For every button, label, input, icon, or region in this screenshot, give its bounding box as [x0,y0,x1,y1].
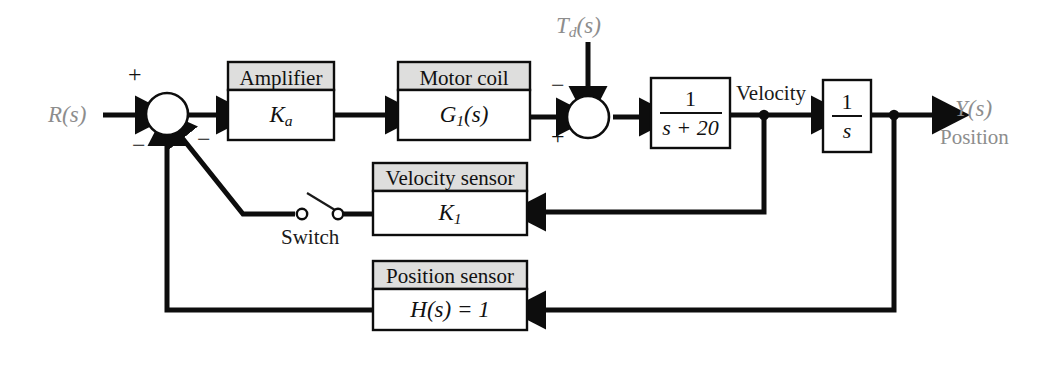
disturbance-arg: (s) [577,13,601,38]
output-signal-name: Position [940,127,1009,148]
position-sensor-expr-tail: (s) = 1 [427,297,490,322]
plant-lag-denominator: s + 20 [651,114,730,139]
disturbance-symbol: T [556,13,569,38]
input-signal-label: R(s) [48,103,86,126]
plant-lag-expression: 1 s + 20 [651,88,730,139]
switch-terminal-right[interactable] [333,209,343,219]
velocity-sensor-expression: K1 [373,201,527,227]
amplifier-title: Amplifier [228,68,334,89]
velocity-sensor-expr-sub: 1 [454,210,462,227]
disturbance-junction-plus-sign: + [551,124,565,148]
wire-position-sensor-to-error-junction [167,140,373,310]
position-sensor-expr-main: H [410,297,427,322]
position-sensor-expression: H(s) = 1 [373,298,527,321]
position-sensor-title: Position sensor [373,266,527,287]
disturbance-signal-label: Td(s) [556,14,601,40]
disturbance-summing-junction [567,96,609,138]
amplifier-expression: Ka [228,103,334,129]
amplifier-expr-main: K [269,102,284,127]
velocity-sensor-expr-main: K [438,200,453,225]
amplifier-expr-sub: a [285,112,293,129]
motor-coil-expr-main: G [440,102,457,127]
integrator-numerator: 1 [823,91,871,115]
error-junction-minus-sign-velocity: − [197,127,211,151]
motor-coil-expr-tail: (s) [464,102,488,127]
switch-terminal-left[interactable] [297,209,307,219]
motor-coil-title: Motor coil [398,68,530,89]
block-diagram: R(s) + − − Amplifier Ka Motor coil G1(s)… [0,0,1062,366]
motor-coil-expression: G1(s) [398,103,530,129]
integrator-denominator: s [823,117,871,142]
error-junction-plus-sign: + [128,62,142,86]
output-signal-symbol: Y(s) [955,97,992,120]
velocity-sensor-title: Velocity sensor [373,168,527,189]
switch-label: Switch [281,227,339,248]
plant-lag-numerator: 1 [651,88,730,112]
error-summing-junction [146,93,188,135]
error-junction-minus-sign-position: − [132,133,146,157]
velocity-signal-label: Velocity [736,83,806,104]
disturbance-subscript: d [569,23,577,40]
switch-blade[interactable] [307,193,335,210]
wire-layer [0,0,1062,366]
integrator-expression: 1 s [823,91,871,142]
disturbance-junction-minus-sign: − [551,73,565,97]
motor-coil-expr-sub: 1 [456,112,464,129]
